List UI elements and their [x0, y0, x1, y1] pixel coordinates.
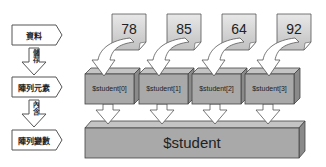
array-variable-label: $student: [85, 134, 299, 151]
data-value-2: 64: [222, 21, 256, 37]
array-element-label-3: $student[3]: [245, 85, 294, 92]
data-value-1: 85: [167, 21, 201, 37]
array-element-label-2: $student[2]: [192, 85, 241, 92]
data-value-3: 92: [277, 21, 311, 37]
data-value-0: 78: [112, 21, 146, 37]
array-element-label-0: $student[0]: [85, 85, 134, 92]
array-element-label-1: $student[1]: [139, 85, 188, 92]
